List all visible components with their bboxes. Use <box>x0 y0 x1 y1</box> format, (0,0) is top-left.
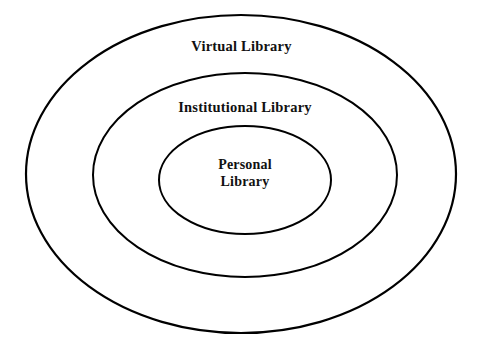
diagram-canvas: Virtual Library Institutional Library Pe… <box>0 0 483 350</box>
label-personal-library-line-1: Personal <box>0 157 483 174</box>
label-personal-library: Personal Library <box>0 157 483 190</box>
label-virtual-library: Virtual Library <box>0 38 483 55</box>
label-personal-library-line-2: Library <box>0 174 483 191</box>
label-institutional-library: Institutional Library <box>0 99 483 116</box>
